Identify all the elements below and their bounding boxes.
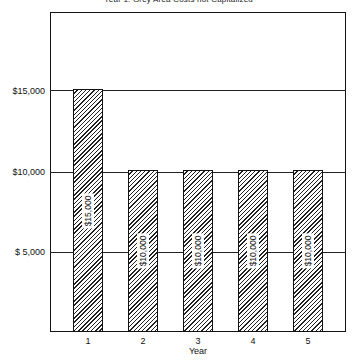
xtick-label: 2 xyxy=(128,336,158,346)
ytick-label: $10,000 xyxy=(12,167,45,177)
xtick-label: 4 xyxy=(238,336,268,346)
xtick-label: 1 xyxy=(73,336,103,346)
x-axis-label: Year xyxy=(50,346,346,356)
bar-value-label: $10,000 xyxy=(247,234,259,269)
xtick-label: 5 xyxy=(293,336,323,346)
bar-year-5: $10,000 xyxy=(293,170,323,332)
bar-year-2: $10,000 xyxy=(128,170,158,332)
bar-year-1: $15,000 xyxy=(73,89,103,332)
xtick-label: 3 xyxy=(183,336,213,346)
ytick-label: $15,000 xyxy=(12,86,45,96)
bar-value-label: $15,000 xyxy=(82,193,94,228)
bar-value-label: $10,000 xyxy=(137,234,149,269)
chart-title: Year 1: Grey Area Costs not Capitalized xyxy=(0,0,357,4)
bar-value-label: $10,000 xyxy=(192,234,204,269)
bar-year-3: $10,000 xyxy=(183,170,213,332)
ytick-label: $ 5,000 xyxy=(15,247,45,257)
bar-value-label: $10,000 xyxy=(302,234,314,269)
bar-year-4: $10,000 xyxy=(238,170,268,332)
